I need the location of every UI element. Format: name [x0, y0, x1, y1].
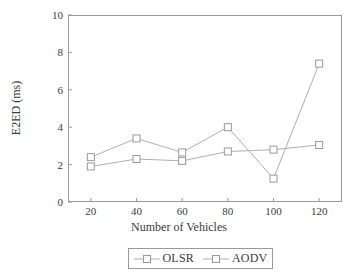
x-axis-title: Number of Vehicles	[131, 220, 227, 235]
x-tick-label-120: 120	[311, 206, 328, 217]
data-point-olsr-20	[87, 163, 94, 170]
legend-entry-olsr: OLSR	[134, 251, 194, 266]
series-lines-group	[91, 64, 319, 179]
chart-figure: 0246810 20406080100120 Number of Vehicle…	[0, 0, 358, 277]
data-point-aodv-20	[87, 154, 94, 161]
chart-legend: OLSR AODV	[128, 248, 273, 269]
y-tick-label-6: 6	[58, 84, 64, 95]
data-point-aodv-60	[179, 149, 186, 156]
legend-label-olsr: OLSR	[163, 251, 194, 266]
x-axis-ticks	[91, 198, 319, 202]
y-tick-label-10: 10	[52, 10, 63, 21]
x-tick-label-80: 80	[222, 206, 233, 217]
series-line-aodv	[91, 64, 319, 179]
plot-canvas	[0, 0, 358, 277]
y-tick-label-2: 2	[58, 159, 64, 170]
x-tick-label-100: 100	[265, 206, 282, 217]
y-tick-label-8: 8	[58, 47, 64, 58]
data-point-olsr-60	[179, 157, 186, 164]
legend-entry-aodv: AODV	[203, 251, 267, 266]
legend-label-aodv: AODV	[232, 251, 267, 266]
data-point-olsr-100	[270, 146, 277, 153]
data-point-aodv-40	[133, 135, 140, 142]
y-axis-ticks	[68, 15, 72, 202]
data-point-olsr-80	[224, 148, 231, 155]
series-markers-group	[87, 60, 322, 182]
open-square-marker-icon	[203, 254, 229, 264]
open-square-marker-icon	[134, 254, 160, 264]
x-tick-label-60: 60	[177, 206, 188, 217]
data-point-olsr-40	[133, 155, 140, 162]
y-tick-label-4: 4	[58, 122, 64, 133]
x-tick-label-20: 20	[85, 206, 96, 217]
data-point-aodv-120	[316, 60, 323, 67]
data-point-aodv-80	[224, 124, 231, 131]
data-point-olsr-120	[316, 141, 323, 148]
y-tick-label-0: 0	[58, 197, 64, 208]
y-axis-title: E2ED (ms)	[9, 81, 24, 135]
data-point-aodv-100	[270, 175, 277, 182]
series-line-olsr	[91, 145, 319, 167]
x-tick-label-40: 40	[131, 206, 142, 217]
